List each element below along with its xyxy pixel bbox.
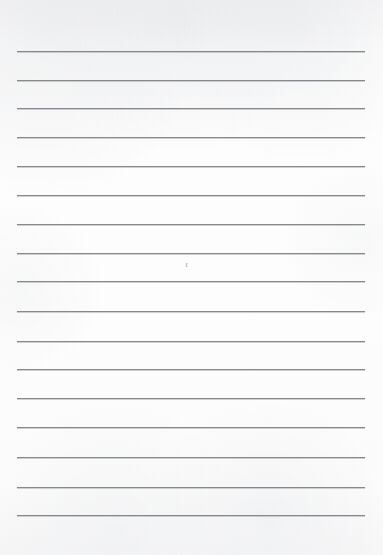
ruled-line xyxy=(17,281,365,282)
ruled-line xyxy=(17,253,365,254)
ruled-line xyxy=(17,341,365,342)
ruled-line xyxy=(17,80,365,81)
lined-paper-page: ℓ xyxy=(0,0,383,555)
ruled-line xyxy=(17,457,365,458)
ruled-lines-group xyxy=(0,0,383,555)
ruled-line xyxy=(17,195,365,196)
ruled-line xyxy=(17,224,365,225)
ruled-line xyxy=(17,166,365,167)
ruled-line xyxy=(17,108,365,109)
ruled-line xyxy=(17,515,365,516)
ruled-line xyxy=(17,427,365,428)
ruled-line xyxy=(17,369,365,370)
ruled-line xyxy=(17,137,365,138)
ruled-line xyxy=(17,487,365,488)
ruled-line xyxy=(17,51,365,52)
ruled-line xyxy=(17,398,365,399)
ruled-line xyxy=(17,311,365,312)
